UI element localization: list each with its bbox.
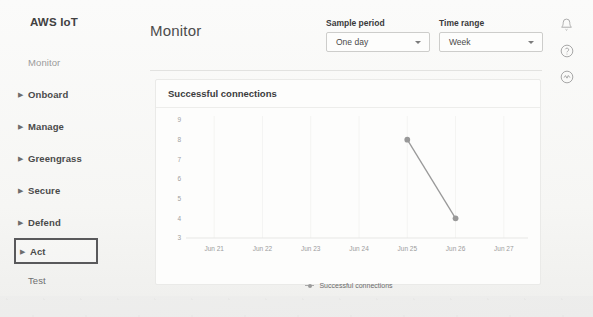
top-icon-rail — [558, 16, 584, 94]
chevron-right-icon: ▶ — [18, 155, 28, 162]
sample-period-label: Sample period — [326, 18, 430, 28]
header-divider — [150, 70, 542, 71]
chart-legend: Successful connections — [156, 281, 542, 290]
y-axis-tick-label: 7 — [177, 156, 181, 163]
chevron-down-icon — [415, 41, 421, 44]
chevron-down-icon — [528, 41, 534, 44]
chevron-right-icon: ▶ — [18, 123, 28, 130]
chevron-right-icon: ▶ — [18, 219, 28, 226]
data-point[interactable] — [404, 137, 410, 143]
chart-card: Successful connections 9876543Jun 21Jun … — [155, 79, 541, 285]
time-range-label: Time range — [439, 18, 543, 28]
x-axis-tick-label: Jun 23 — [301, 245, 321, 252]
series-line — [407, 140, 455, 219]
sidebar-item-secure[interactable]: ▶Secure — [0, 174, 140, 206]
y-axis-tick-label: 5 — [177, 195, 181, 202]
chevron-right-icon: ▶ — [18, 91, 28, 98]
brand-title: AWS IoT — [30, 16, 78, 28]
sidebar-item-defend[interactable]: ▶Defend — [0, 206, 140, 238]
sample-period-value: One day — [336, 37, 368, 47]
time-range-value: Week — [449, 37, 471, 47]
x-axis-tick-label: Jun 21 — [204, 245, 224, 252]
bell-icon[interactable] — [558, 16, 575, 33]
sidebar-item-manage[interactable]: ▶Manage — [0, 110, 140, 142]
chevron-right-icon: ▶ — [20, 248, 30, 255]
sidebar-item-label: Greengrass — [28, 153, 82, 164]
x-axis-tick-label: Jun 26 — [446, 245, 466, 252]
y-axis-tick-label: 3 — [177, 234, 181, 241]
sidebar-item-onboard[interactable]: ▶Onboard — [0, 78, 140, 110]
chart-card-title: Successful connections — [168, 88, 277, 99]
y-axis-tick-label: 4 — [177, 215, 181, 222]
sidebar-item-label: Defend — [28, 217, 61, 228]
sidebar-item-label: Test — [28, 275, 46, 286]
page-header: Monitor Sample periodOne dayTime rangeWe… — [140, 0, 593, 72]
app-window: AWS IoT ▶Monitor▶Onboard▶Manage▶Greengra… — [0, 0, 593, 317]
sidebar-nav: ▶Monitor▶Onboard▶Manage▶Greengrass▶Secur… — [0, 46, 140, 296]
y-axis-tick-label: 9 — [177, 116, 181, 123]
chevron-right-icon: ▶ — [18, 187, 28, 194]
time-range-select[interactable]: Week — [439, 32, 543, 52]
line-chart[interactable]: 9876543Jun 21Jun 22Jun 23Jun 24Jun 25Jun… — [156, 108, 542, 286]
sidebar-item-label: Act — [30, 246, 46, 257]
sidebar-item-label: Monitor — [28, 57, 60, 68]
sidebar-item-test[interactable]: ▶Test — [0, 264, 140, 296]
x-axis-tick-label: Jun 27 — [494, 245, 514, 252]
help-icon[interactable] — [558, 42, 575, 59]
page-title: Monitor — [150, 22, 201, 39]
sidebar-item-greengrass[interactable]: ▶Greengrass — [0, 142, 140, 174]
x-axis-tick-label: Jun 24 — [349, 245, 369, 252]
sidebar-item-label: Manage — [28, 121, 64, 132]
sidebar-item-act[interactable]: ▶Act — [14, 238, 98, 264]
settings-icon[interactable] — [558, 68, 575, 85]
sidebar-item-monitor[interactable]: ▶Monitor — [0, 46, 140, 78]
chart-canvas: 9876543Jun 21Jun 22Jun 23Jun 24Jun 25Jun… — [156, 108, 542, 286]
sample-period-control: Sample periodOne day — [326, 18, 430, 52]
sidebar: AWS IoT ▶Monitor▶Onboard▶Manage▶Greengra… — [0, 0, 140, 296]
y-axis-tick-label: 6 — [177, 175, 181, 182]
sidebar-item-label: Onboard — [28, 89, 68, 100]
data-point[interactable] — [453, 215, 459, 221]
x-axis-tick-label: Jun 25 — [398, 245, 418, 252]
time-range-control: Time rangeWeek — [439, 18, 543, 52]
y-axis-tick-label: 8 — [177, 136, 181, 143]
x-axis-tick-label: Jun 22 — [253, 245, 273, 252]
sidebar-item-label: Secure — [28, 185, 60, 196]
legend-label: Successful connections — [319, 282, 392, 289]
sample-period-select[interactable]: One day — [326, 32, 430, 52]
legend-marker-icon — [305, 281, 314, 290]
